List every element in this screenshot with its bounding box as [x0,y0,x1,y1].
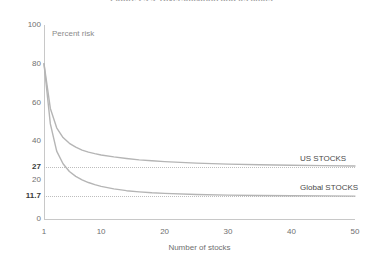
risk-decay-curves [0,0,383,270]
x-axis-label: Number of stocks [44,243,355,252]
curve-us-stocks [44,64,355,166]
curve-global-stocks [44,64,355,196]
chart-canvas: Figure 2.2.2 Diversification and its lim… [0,0,383,270]
